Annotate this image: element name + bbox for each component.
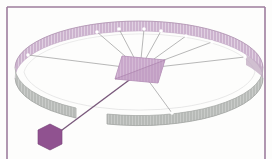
ring-marker-dot <box>117 27 121 31</box>
ring-marker-dot <box>95 30 99 34</box>
ring-marker-dot <box>170 111 174 115</box>
figure-canvas: 3D ring diagram with central hub and sat… <box>0 0 272 159</box>
ring-marker-dot <box>184 34 188 38</box>
ring-diagram <box>0 0 272 159</box>
ring-marker-dot <box>26 53 30 57</box>
ring-marker-dot <box>243 55 247 59</box>
central-hub <box>115 56 165 83</box>
ring-marker-dot <box>159 29 163 33</box>
ring-marker-dot <box>142 27 146 31</box>
ring-marker-dot <box>210 40 214 44</box>
satellite-node <box>38 124 62 150</box>
